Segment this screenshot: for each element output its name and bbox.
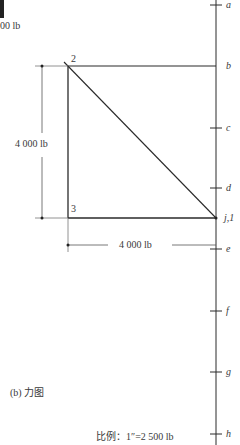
- tick-label-a: a: [226, 0, 231, 10]
- tick-label-h: h: [226, 428, 231, 439]
- tick-label-e: e: [226, 243, 230, 254]
- figure-caption: (b) 力图: [10, 384, 44, 399]
- tick-label-c: c: [226, 122, 230, 133]
- node-3-label: 3: [71, 203, 76, 214]
- tick-label-g: g: [226, 366, 231, 377]
- tick-label-f: f: [226, 305, 229, 316]
- horizontal-dimension-label: 4 000 lb: [119, 239, 152, 250]
- tick-label-b: b: [226, 60, 231, 71]
- scale-label: 比例：1″=2 500 lb: [96, 428, 174, 443]
- tick-label-d: d: [226, 182, 231, 193]
- member-2-j: [64, 62, 216, 218]
- node-2-label: 2: [71, 53, 76, 64]
- force-diagram: [0, 0, 240, 445]
- vertical-dimension-label: 4 000 lb: [15, 138, 48, 149]
- tick-label-j1: j,1: [224, 212, 234, 223]
